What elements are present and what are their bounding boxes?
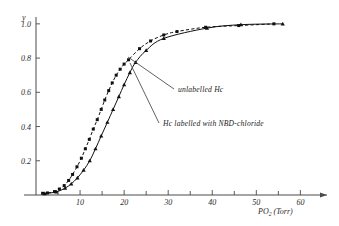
data-point-triangle <box>93 147 97 151</box>
y-tick-label: 0.4 <box>21 123 31 132</box>
y-tick-label: 0.2 <box>21 157 31 166</box>
x-axis-arrowhead <box>320 192 327 197</box>
data-point-square <box>103 99 106 102</box>
data-point-triangle <box>105 120 109 124</box>
data-point-triangle <box>117 94 121 98</box>
y-axis-title: y <box>21 13 26 22</box>
data-point-square <box>88 138 91 141</box>
x-tick-labels-group: 102030405060 <box>76 198 304 207</box>
oxygen-binding-curve-figure: 0.20.40.60.81.0 102030405060 y PO2 (Torr… <box>0 0 339 226</box>
data-point-square <box>123 63 126 66</box>
data-point-square <box>46 191 49 194</box>
data-markers-group <box>41 22 285 195</box>
x-tick-label: 20 <box>120 198 128 207</box>
x-axis-title: PO2 (Torr) <box>257 207 293 217</box>
y-tick-labels-group: 0.20.40.60.81.0 <box>21 20 31 166</box>
x-tick-label: 10 <box>76 198 84 207</box>
data-point-triangle <box>128 71 132 75</box>
data-point-square <box>80 157 83 160</box>
data-point-square <box>75 165 78 168</box>
data-point-square <box>176 30 179 33</box>
curve-labelled-hc <box>45 24 283 194</box>
data-point-triangle <box>111 107 115 111</box>
data-point-square <box>115 74 118 77</box>
data-point-square <box>96 118 99 121</box>
data-point-triangle <box>88 159 92 163</box>
data-point-square <box>71 173 74 176</box>
axes-group <box>24 17 327 198</box>
annotation-label-unlabelled: unlabelled Hc <box>178 85 224 94</box>
data-point-square <box>100 108 103 111</box>
data-point-square <box>58 188 61 191</box>
x-tick-marks-group <box>58 190 300 195</box>
x-tick-label: 60 <box>296 198 304 207</box>
annotation-leader-labelled <box>130 63 159 123</box>
data-point-square <box>119 68 122 71</box>
data-point-square <box>149 39 152 42</box>
y-tick-label: 0.8 <box>21 54 31 63</box>
data-point-triangle <box>122 83 126 87</box>
y-tick-label: 0.6 <box>21 88 31 97</box>
data-point-square <box>107 89 110 92</box>
data-point-square <box>272 22 275 25</box>
y-tick-marks-group <box>36 24 40 161</box>
data-point-square <box>67 179 70 182</box>
data-point-square <box>127 58 130 61</box>
x-tick-label: 30 <box>163 198 172 207</box>
annotation-texts-group: unlabelled HcHc labelled with NBD-chlori… <box>162 85 264 128</box>
x-tick-label: 40 <box>208 198 216 207</box>
chart-canvas: 0.20.40.60.81.0 102030405060 y PO2 (Torr… <box>0 0 339 226</box>
x-tick-label: 50 <box>252 198 260 207</box>
data-point-square <box>111 81 114 84</box>
data-point-square <box>138 47 141 50</box>
data-point-square <box>162 33 165 36</box>
annotation-label-labelled: Hc labelled with NBD-chloride <box>162 119 264 128</box>
annotation-leader-lines-group <box>128 57 174 123</box>
data-curves-group <box>43 24 283 194</box>
data-point-square <box>84 147 87 150</box>
data-point-triangle <box>99 134 103 138</box>
data-point-square <box>92 128 95 131</box>
